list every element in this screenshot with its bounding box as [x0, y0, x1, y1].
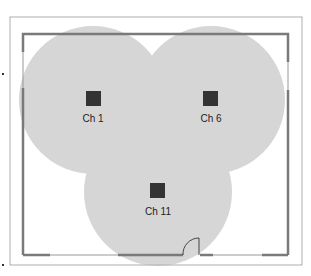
access-point-icon	[86, 91, 101, 106]
marker-dot	[2, 264, 4, 266]
access-point-icon	[150, 183, 165, 198]
marker-dot	[2, 73, 4, 75]
ap-label: Ch 11	[145, 206, 171, 217]
wifi-channel-diagram: Ch 1 Ch 6 Ch 11	[0, 0, 311, 276]
access-point-icon	[203, 91, 218, 106]
ap-label: Ch 1	[82, 113, 104, 124]
ap-label: Ch 6	[200, 113, 222, 124]
